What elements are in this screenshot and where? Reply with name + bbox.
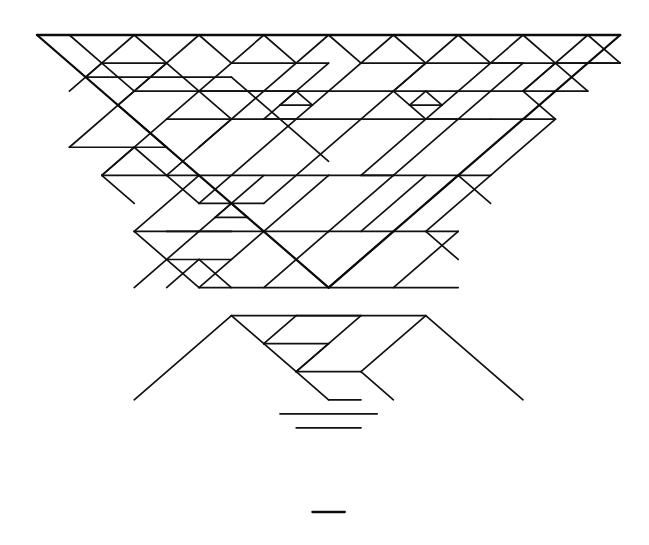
- triangle-dissection-figure: [0, 0, 649, 545]
- figure-root: [0, 0, 649, 545]
- figure-background: [0, 0, 649, 545]
